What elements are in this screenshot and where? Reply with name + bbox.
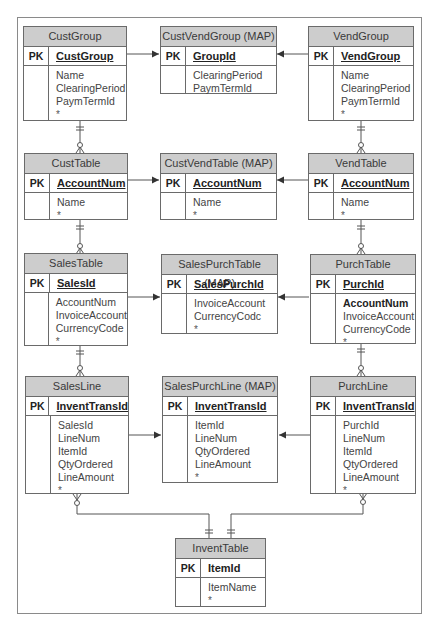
field-more: * [193, 209, 276, 222]
pk-label: PK [309, 174, 334, 192]
field-more: * [57, 209, 127, 222]
field: CurrencyCode [56, 322, 127, 335]
field: PaymTermId [193, 82, 276, 95]
entity-salesline: SalesLine PKInventTransId SalesId LineNu… [25, 376, 129, 494]
field-more: * [341, 108, 413, 121]
entity-vendgroup: VendGroup PKVendGroup Name ClearingPerio… [308, 26, 414, 121]
primary-key: InventTransId [49, 397, 128, 415]
field-bold: AccountNum [343, 297, 415, 310]
primary-key: CustGroup [49, 47, 126, 65]
entity-title: SalesTable [25, 254, 127, 274]
entity-title: CustVendTable (MAP) [161, 154, 276, 174]
entity-title: VendGroup [309, 27, 413, 47]
field-more: * [343, 484, 415, 497]
entity-title: SalesPurchTable (MAP) [162, 255, 277, 275]
entity-title: VendTable [309, 154, 413, 174]
field: ClearingPeriod [341, 82, 413, 95]
field: QtyOrdered [58, 458, 128, 471]
field-more: * [341, 209, 413, 222]
pk-label: PK [161, 47, 186, 65]
field: LineAmount [195, 458, 277, 471]
field: Name [56, 69, 126, 82]
primary-key: VendGroup [334, 47, 413, 65]
primary-key: SalesPurchId [187, 275, 277, 293]
field-more: * [208, 594, 265, 607]
entity-custtable: CustTable PKAccountNum Name * [24, 153, 128, 220]
field: InvoiceAccount [343, 310, 415, 323]
pk-label: PK [311, 275, 336, 293]
pk-label: PK [309, 47, 334, 65]
pk-label: PK [161, 174, 186, 192]
field-more: * [343, 336, 415, 349]
primary-key: PurchId [336, 275, 415, 293]
pk-label: PK [25, 174, 50, 192]
field: InvoiceAccount [56, 309, 127, 322]
field: ItemName [208, 581, 265, 594]
field: ClearingPeriod [193, 69, 276, 82]
entity-title: CustTable [25, 154, 127, 174]
pk-label: PK [25, 274, 50, 292]
field: SalesId [58, 419, 128, 432]
entity-salespurchline-map: SalesPurchLine (MAP) PKInventTransId Ite… [162, 376, 278, 483]
field-more: * [194, 323, 277, 336]
field: LineNum [195, 432, 277, 445]
primary-key: SalesId [50, 274, 127, 292]
field: ItemId [195, 419, 277, 432]
primary-key: GroupId [186, 47, 276, 65]
field-more: * [56, 335, 127, 348]
entity-salestable: SalesTable PKSalesId AccountNum InvoiceA… [24, 253, 128, 346]
entity-title: CustGroup [24, 27, 126, 47]
field-more: * [56, 108, 126, 121]
field: Name [193, 196, 276, 209]
primary-key: ItemId [201, 559, 265, 577]
field: Name [57, 196, 127, 209]
field: ItemId [343, 445, 415, 458]
pk-label: PK [26, 397, 49, 415]
entity-title: CustVendGroup (MAP) [161, 27, 276, 47]
field: PaymTermId [56, 95, 126, 108]
pk-label: PK [24, 47, 49, 65]
field: QtyOrdered [343, 458, 415, 471]
field: ItemId [58, 445, 128, 458]
entity-inventtable: InventTable PKItemId ItemName * [175, 538, 266, 607]
entity-custvendgroup-map: CustVendGroup (MAP) PKGroupId ClearingPe… [160, 26, 277, 94]
entity-custvendtable-map: CustVendTable (MAP) PKAccountNum Name * [160, 153, 277, 220]
pk-label: PK [311, 397, 336, 415]
pk-label: PK [162, 275, 187, 293]
primary-key: AccountNum [50, 174, 127, 192]
field-more: * [195, 471, 277, 484]
entity-title: SalesLine [26, 377, 128, 397]
field: PaymTermId [341, 95, 413, 108]
field: ClearingPeriod [56, 82, 126, 95]
field: QtyOrdered [195, 445, 277, 458]
entity-salespurchtable-map: SalesPurchTable (MAP) PKSalesPurchId Inv… [161, 254, 278, 334]
field: LineAmount [58, 471, 128, 484]
field: CurrencyCode [343, 323, 415, 336]
primary-key: AccountNum [186, 174, 276, 192]
field-more: * [58, 484, 128, 497]
field: InvoiceAccount [194, 297, 277, 310]
field: AccountNum [56, 296, 127, 309]
entity-title: InventTable [176, 539, 265, 559]
field: PurchId [343, 419, 415, 432]
entity-title: PurchLine [311, 377, 415, 397]
field: CurrencyCodc [194, 310, 277, 323]
entity-custgroup: CustGroup PKCustGroup Name ClearingPerio… [23, 26, 127, 121]
primary-key: AccountNum [334, 174, 413, 192]
entity-purchline: PurchLine PKInventTransId PurchId LineNu… [310, 376, 416, 494]
primary-key: InventTransId [188, 397, 277, 415]
field: LineAmount [343, 471, 415, 484]
pk-label: PK [163, 397, 188, 415]
entity-title: PurchTable [311, 255, 415, 275]
field: Name [341, 196, 413, 209]
pk-label: PK [176, 559, 201, 577]
field: LineNum [58, 432, 128, 445]
entity-vendtable: VendTable PKAccountNum Name * [308, 153, 414, 220]
primary-key: InventTransId [336, 397, 415, 415]
entity-title: SalesPurchLine (MAP) [163, 377, 277, 397]
field: LineNum [343, 432, 415, 445]
field: Name [341, 69, 413, 82]
entity-purchtable: PurchTable PKPurchId AccountNum InvoiceA… [310, 254, 416, 344]
